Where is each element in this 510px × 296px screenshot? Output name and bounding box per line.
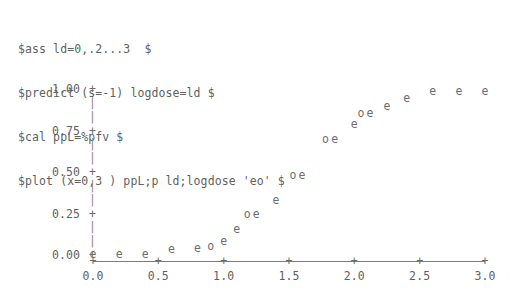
plot-marker-e: e	[193, 242, 202, 254]
plot-marker-e: e	[115, 248, 124, 260]
plot-marker-e: e	[298, 169, 307, 181]
y-axis-label: 0.75	[38, 125, 80, 137]
plot-marker-e: e	[252, 208, 261, 220]
y-axis-label: 0.00	[38, 249, 80, 261]
x-axis-tick: +	[154, 255, 163, 267]
y-axis-dash: |	[88, 138, 97, 150]
plot-marker-e: e	[271, 194, 280, 206]
scatter-plot: 0.00+||0.25+||0.50+||0.75+||1.00+ +0.0+0…	[0, 0, 510, 296]
y-axis-tick: +	[88, 125, 97, 137]
plot-marker-o: o	[206, 240, 215, 252]
x-axis-label: 0.0	[78, 270, 108, 282]
y-axis-label: 1.00	[38, 83, 80, 95]
y-axis-tick: +	[88, 208, 97, 220]
x-axis-tick: +	[285, 255, 294, 267]
plot-marker-e: e	[219, 235, 228, 247]
plot-marker-o: o	[321, 133, 330, 145]
x-axis-tick: +	[481, 255, 490, 267]
plot-marker-e: e	[232, 223, 241, 235]
x-axis-label: 1.5	[274, 270, 304, 282]
plot-marker-e: e	[428, 85, 437, 97]
y-axis-dash: |	[88, 111, 97, 123]
plot-marker-e: e	[330, 133, 339, 145]
y-axis-tick: +	[88, 83, 97, 95]
y-axis-tick: +	[88, 166, 97, 178]
plot-marker-o: o	[356, 107, 365, 119]
y-axis-dash: |	[88, 152, 97, 164]
plot-marker-e: e	[481, 85, 490, 97]
plot-marker-o: o	[288, 169, 297, 181]
plot-marker-e: e	[366, 107, 375, 119]
x-axis-tick: +	[219, 255, 228, 267]
plot-marker-e: e	[454, 85, 463, 97]
x-axis-label: 2.5	[405, 270, 435, 282]
y-axis-dash: |	[88, 97, 97, 109]
x-axis-label: 0.5	[143, 270, 173, 282]
y-axis-dash: |	[88, 221, 97, 233]
y-axis-dash: |	[88, 235, 97, 247]
x-axis-label: 2.0	[339, 270, 369, 282]
x-axis-tick: +	[350, 255, 359, 267]
y-axis-label: 0.50	[38, 166, 80, 178]
x-axis-label: 1.0	[209, 270, 239, 282]
plot-marker-e: e	[402, 92, 411, 104]
plot-marker-e: e	[383, 100, 392, 112]
plot-marker-e: e	[167, 243, 176, 255]
plot-marker-o: o	[243, 208, 252, 220]
y-axis-label: 0.25	[38, 208, 80, 220]
y-axis-dash: |	[88, 180, 97, 192]
y-axis-dash: |	[88, 194, 97, 206]
x-axis-label: 3.0	[470, 270, 500, 282]
x-axis-tick: +	[415, 255, 424, 267]
plot-marker-e: e	[89, 248, 98, 260]
plot-marker-e: e	[141, 248, 150, 260]
